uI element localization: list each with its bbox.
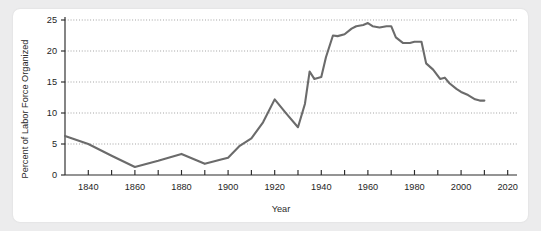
y-tick-label: 15 <box>47 77 57 87</box>
x-tick-label: 1880 <box>171 182 191 192</box>
x-tick-label: 1900 <box>218 182 238 192</box>
page-root: 1840186018801900192019401960198020002020… <box>0 0 541 231</box>
x-axis <box>65 170 517 175</box>
x-tick-label: 1840 <box>78 182 98 192</box>
y-tick-label: 25 <box>47 15 57 25</box>
x-tick-labels: 1840186018801900192019401960198020002020 <box>78 182 518 192</box>
x-tick-label: 1920 <box>264 182 284 192</box>
y-tick-label: 5 <box>52 139 57 149</box>
x-axis-title: Year <box>272 204 291 214</box>
x-tick-label: 2000 <box>451 182 471 192</box>
y-tick-label: 20 <box>47 46 57 56</box>
x-tick-label: 2020 <box>497 182 517 192</box>
y-axis-title: Percent of Labor Force Organized <box>20 40 30 179</box>
x-tick-label: 1960 <box>358 182 378 192</box>
x-tick-label: 1940 <box>311 182 331 192</box>
y-axis <box>61 17 65 175</box>
labor-force-line-chart: 1840186018801900192019401960198020002020… <box>13 9 528 222</box>
x-tick-label: 1860 <box>125 182 145 192</box>
y-tick-label: 10 <box>47 108 57 118</box>
x-tick-label: 1980 <box>404 182 424 192</box>
data-series-line <box>65 23 484 167</box>
chart-card: 1840186018801900192019401960198020002020… <box>13 9 528 222</box>
y-tick-label: 0 <box>52 170 57 180</box>
y-tick-labels: 0510152025 <box>47 15 57 180</box>
